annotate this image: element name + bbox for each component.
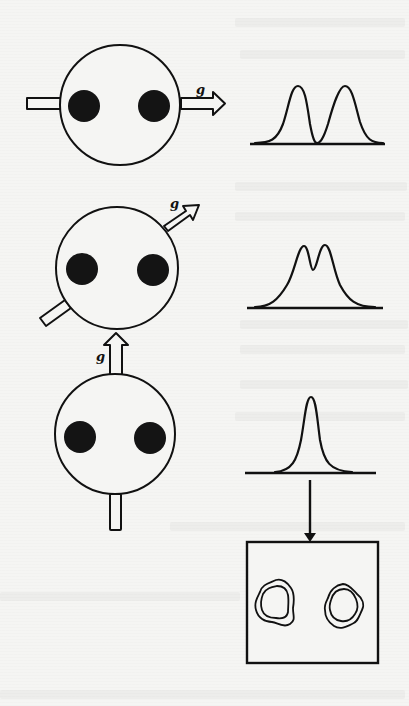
atom-dot-left — [68, 90, 100, 122]
arrow-tail-diagonal — [40, 300, 71, 326]
g-vector-arrow-up — [104, 333, 128, 376]
arrow-head-down — [304, 533, 316, 542]
panel-2: g — [40, 196, 383, 329]
spectrum-curve-two-peaks — [255, 86, 383, 143]
diagram-canvas: g g g — [0, 0, 409, 706]
atom-dot-left — [66, 253, 98, 285]
atom-dot-left — [64, 421, 96, 453]
image-panel-box — [247, 542, 378, 663]
g-label: g — [196, 82, 205, 97]
spectrum-curve-single-peak — [275, 397, 352, 472]
g-label: g — [170, 196, 179, 211]
spectrum-curve-overlapping-peaks — [255, 245, 375, 307]
atom-dot-right — [134, 422, 166, 454]
panel-1: g — [27, 45, 385, 165]
g-label: g — [96, 349, 105, 364]
panel-3: g — [55, 333, 376, 542]
atom-dot-right — [137, 254, 169, 286]
arrow-tail-left — [27, 98, 61, 109]
arrow-tail-bottom — [110, 494, 121, 530]
image-panel-frame — [247, 542, 378, 663]
atom-dot-right — [138, 90, 170, 122]
